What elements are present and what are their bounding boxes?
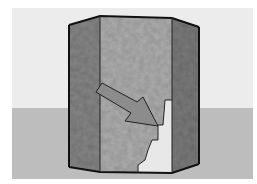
right-face (172, 18, 199, 173)
scene-canvas (0, 0, 257, 184)
left-face (69, 16, 100, 172)
octagonal-prism (69, 16, 199, 173)
